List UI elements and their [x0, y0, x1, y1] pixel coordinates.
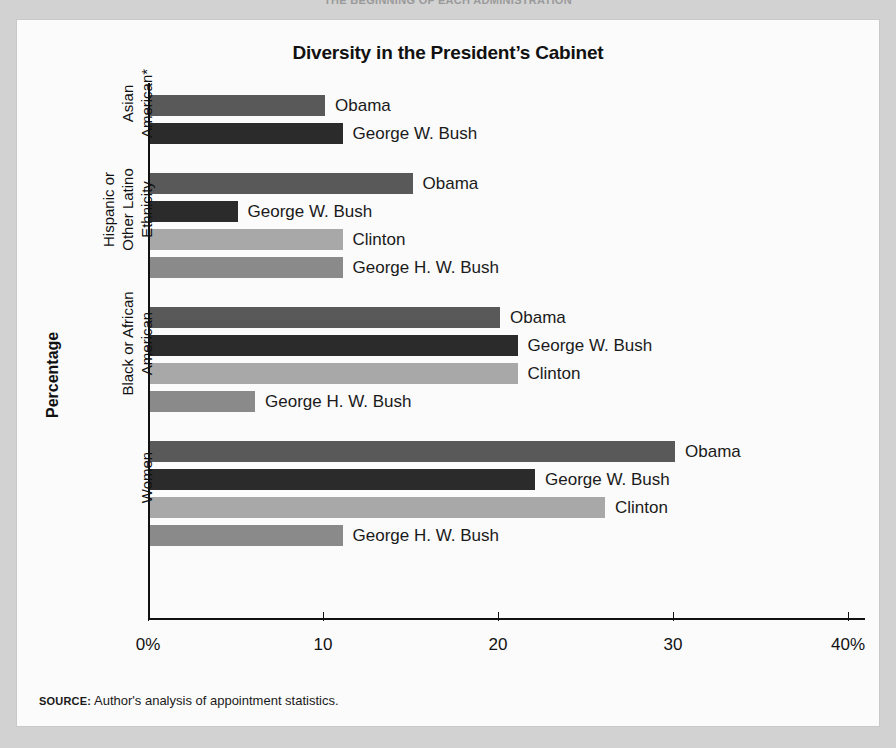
- bar-label: George W. Bush: [353, 123, 478, 144]
- category-label: Women: [138, 405, 155, 550]
- figure-card: Diversity in the President’s Cabinet Per…: [17, 20, 879, 726]
- bar: [150, 95, 325, 116]
- running-head: THE BEGINNING OF EACH ADMINISTRATION: [0, 0, 896, 8]
- bar: [150, 335, 518, 356]
- bar: [150, 363, 518, 384]
- bar: [150, 525, 343, 546]
- x-tick-label-30: 30: [664, 635, 683, 655]
- y-axis-title: Percentage: [44, 332, 62, 418]
- bar-label: George H. W. Bush: [353, 257, 499, 278]
- x-tick-10: [323, 612, 324, 621]
- bar-label: Clinton: [528, 363, 581, 384]
- bar: [150, 391, 255, 412]
- bar-label: Obama: [510, 307, 566, 328]
- x-tick-40: [848, 612, 849, 621]
- bar-label: George W. Bush: [248, 201, 373, 222]
- bar-label: Obama: [335, 95, 391, 116]
- bar: [150, 229, 343, 250]
- bar: [150, 469, 535, 490]
- x-tick-20: [498, 612, 499, 621]
- x-tick-label-20: 20: [489, 635, 508, 655]
- bar-label: Obama: [423, 173, 479, 194]
- bar: [150, 307, 500, 328]
- x-tick-30: [673, 612, 674, 621]
- bar-label: George H. W. Bush: [265, 391, 411, 412]
- bar: [150, 173, 413, 194]
- bar-label: George H. W. Bush: [353, 525, 499, 546]
- bar: [150, 441, 675, 462]
- bar: [150, 497, 605, 518]
- x-axis-line: [148, 618, 865, 620]
- category-label: Hispanic or: [100, 137, 117, 282]
- category-label: Black or African: [119, 271, 136, 416]
- bar-label: Clinton: [353, 229, 406, 250]
- bar: [150, 123, 343, 144]
- plot-area: 0%10203040% ObamaGeorge W. BushObamaGeor…: [148, 83, 865, 620]
- category-label: American: [138, 271, 155, 416]
- category-label: American*: [138, 59, 155, 148]
- source-note: SOURCE: Author's analysis of appointment…: [39, 693, 339, 708]
- category-label: Other Latino: [119, 137, 136, 282]
- bar-label: Obama: [685, 441, 741, 462]
- category-label: Asian: [119, 59, 136, 148]
- x-tick-label-0: 0%: [136, 635, 161, 655]
- bar: [150, 257, 343, 278]
- bar-label: George W. Bush: [545, 469, 670, 490]
- x-tick-label-10: 10: [314, 635, 333, 655]
- bar-label: Clinton: [615, 497, 668, 518]
- bar-label: George W. Bush: [528, 335, 653, 356]
- x-tick-label-40: 40%: [831, 635, 865, 655]
- x-tick-0: [148, 612, 149, 621]
- source-label: SOURCE:: [39, 695, 91, 707]
- category-label: Ethnicity: [138, 137, 155, 282]
- source-text: Author's analysis of appointment statist…: [91, 693, 338, 708]
- bar: [150, 201, 238, 222]
